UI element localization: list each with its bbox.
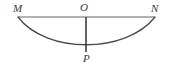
vertex-label-o: O bbox=[80, 2, 88, 13]
vertex-label-m: M bbox=[13, 3, 22, 14]
vertex-label-n: N bbox=[151, 3, 158, 14]
vertex-label-p: P bbox=[83, 53, 90, 64]
geometry-figure: M O N P bbox=[0, 0, 170, 67]
